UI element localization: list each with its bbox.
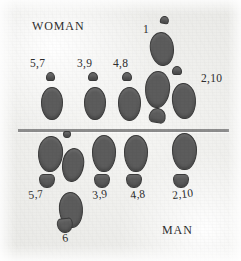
half-divider-line [18,129,229,132]
footprint-sole-mark [172,133,197,170]
step-number-label: 5,7 [30,58,45,70]
footprint-sole-mark [41,87,63,120]
footprint-sole-mark [124,135,148,172]
label-man: MAN [162,224,193,236]
step-number-label: 2,10 [201,73,222,85]
step-number-label: 6 [62,232,69,244]
footprint-toe-mark [172,66,182,75]
step-number-label: 1 [143,24,149,36]
footprint-toe-mark [122,72,132,81]
step-number-label: 3,9 [77,58,92,70]
footprint-sole-mark [118,87,141,121]
step-number-label: 4,8 [113,58,128,70]
step-number-label: 4,8 [130,188,147,201]
footprint-toe-mark [46,72,55,81]
footprint-sole-mark [84,87,106,120]
label-woman: WOMAN [32,20,85,32]
step-number-label: 3,9 [92,188,109,201]
footprint-sole-mark [92,135,116,172]
footprint-gait-figure: 5,73,94,812,105,73,94,82,106 WOMAN MAN [0,0,241,261]
footprint-toe-mark [88,72,98,81]
step-number-label: 5,7 [28,188,45,201]
